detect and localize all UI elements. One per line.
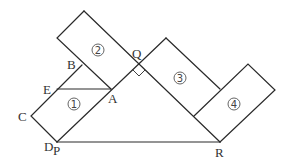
label-p: P: [53, 143, 60, 158]
region-4-marker: 4: [228, 98, 240, 110]
region-3-marker: 3: [174, 72, 186, 84]
region-2-marker: 2: [92, 44, 104, 56]
svg-text:1: 1: [71, 99, 77, 110]
svg-text:2: 2: [95, 45, 101, 56]
region-1-marker: 1: [68, 98, 80, 110]
label-a: A: [108, 91, 118, 106]
segment-qr-extended: [84, 11, 220, 142]
svg-text:3: 3: [177, 73, 183, 84]
label-r: R: [215, 145, 224, 160]
label-c: C: [18, 109, 27, 124]
label-d: D: [44, 139, 53, 154]
svg-text:4: 4: [231, 99, 237, 110]
right-angle-mark: [133, 64, 145, 76]
geometry-diagram: B E A C D P Q R 1 2 3 4: [0, 0, 287, 167]
label-q: Q: [132, 46, 142, 61]
label-e: E: [43, 82, 51, 97]
rectangle-3-right-edge: [166, 38, 220, 89]
rectangle-2-edges: [57, 11, 111, 89]
label-b: B: [67, 57, 76, 72]
